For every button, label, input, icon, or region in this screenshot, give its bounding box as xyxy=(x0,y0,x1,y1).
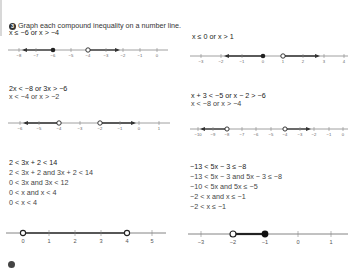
svg-text:−1: −1 xyxy=(118,126,123,131)
svg-text:0: 0 xyxy=(342,132,345,137)
svg-text:−2: −2 xyxy=(219,59,224,64)
svg-text:−8: −8 xyxy=(225,132,230,137)
problem-6-step-3: −2 < x and x ≤ −1 xyxy=(190,192,282,202)
open-point xyxy=(281,54,285,58)
problem-5-step-1: 2 < 3x + 2 and 3x + 2 < 14 xyxy=(9,168,93,178)
problem-4: x + 3 < −5 or x − 2 > −6 x < −8 or x > −… xyxy=(191,92,266,109)
svg-text:−4: −4 xyxy=(283,132,288,137)
problem-3: 2x < −8 or 3x > −6 x < −4 or x > −2 xyxy=(9,85,67,102)
next-exercise-badge xyxy=(8,261,15,268)
svg-text:3: 3 xyxy=(323,59,326,64)
problem-6-inequality: −13 < 5x − 3 ≤ −8 xyxy=(190,162,282,172)
svg-text:−2: −2 xyxy=(230,239,236,245)
problem-5-step-3: 0 < x and x < 4 xyxy=(9,188,93,198)
svg-text:2: 2 xyxy=(73,238,76,244)
problem-1: x ≤ −6 or x > −4 xyxy=(9,29,59,37)
open-point xyxy=(57,121,61,125)
svg-text:−10: −10 xyxy=(194,132,202,137)
page-edge xyxy=(0,0,2,36)
svg-text:−5: −5 xyxy=(269,132,274,137)
svg-text:−3: −3 xyxy=(298,132,303,137)
svg-text:4: 4 xyxy=(343,59,346,64)
number-line-1: −8 −7 −6 −5 −4 −3 −2 −1 0 xyxy=(0,44,176,64)
problem-5-step-2: 0 < 3x and 3x < 12 xyxy=(9,178,93,188)
number-line-3: −6 −5 −4 −3 −2 −1 0 1 xyxy=(0,117,176,137)
open-point xyxy=(283,127,287,131)
problem-6-step-2: −10 < 5x and 5x ≤ −5 xyxy=(190,182,282,192)
svg-text:−2: −2 xyxy=(98,126,103,131)
problem-5-solution: 0 < x < 4 xyxy=(9,198,93,208)
svg-text:1: 1 xyxy=(329,239,332,245)
problem-5: 2 < 3x + 2 < 14 2 < 3x + 2 and 3x + 2 < … xyxy=(9,158,93,208)
svg-text:0: 0 xyxy=(156,53,159,58)
closed-point xyxy=(262,231,269,238)
svg-text:−1: −1 xyxy=(262,239,268,245)
svg-text:4: 4 xyxy=(125,238,128,244)
svg-text:1: 1 xyxy=(158,126,161,131)
svg-text:−3: −3 xyxy=(78,126,83,131)
svg-text:0: 0 xyxy=(262,59,265,64)
svg-text:−3: −3 xyxy=(199,59,204,64)
svg-text:3: 3 xyxy=(99,238,102,244)
svg-text:−2: −2 xyxy=(121,53,126,58)
problem-2-inequality: x ≤ 0 or x > 1 xyxy=(192,33,234,41)
svg-text:−3: −3 xyxy=(104,53,109,58)
svg-text:−1: −1 xyxy=(240,59,245,64)
svg-text:1: 1 xyxy=(282,59,285,64)
open-point xyxy=(86,48,90,52)
closed-point xyxy=(261,54,266,59)
svg-text:1: 1 xyxy=(47,238,50,244)
number-line-2: −3 −2 −1 0 1 2 3 4 xyxy=(176,50,352,70)
number-line-6: −3 −2 −1 0 1 xyxy=(176,227,352,249)
svg-text:−1: −1 xyxy=(327,132,332,137)
svg-text:−5: −5 xyxy=(69,53,74,58)
svg-text:5: 5 xyxy=(150,238,153,244)
svg-text:−6: −6 xyxy=(254,132,259,137)
open-point xyxy=(230,231,236,237)
open-point xyxy=(20,230,25,235)
svg-text:0: 0 xyxy=(296,239,299,245)
problem-1-inequality: x ≤ −6 or x > −4 xyxy=(9,29,59,37)
open-point xyxy=(98,121,102,125)
closed-point xyxy=(51,48,56,53)
svg-text:0: 0 xyxy=(138,126,141,131)
open-point xyxy=(124,230,129,235)
svg-text:−7: −7 xyxy=(240,132,245,137)
svg-text:−6: −6 xyxy=(51,53,56,58)
svg-text:−3: −3 xyxy=(198,239,204,245)
svg-text:−7: −7 xyxy=(34,53,39,58)
svg-text:−8: −8 xyxy=(17,53,22,58)
svg-text:−5: −5 xyxy=(37,126,42,131)
problem-6-solution: −2 < x ≤ −1 xyxy=(190,202,282,212)
svg-text:−6: −6 xyxy=(18,126,23,131)
problem-6-step-1: −13 < 5x − 3 and 5x − 3 ≤ −8 xyxy=(190,172,282,182)
number-line-4: −10 −9 −8 −7 −6 −5 −4 −3 −2 −1 0 xyxy=(176,123,352,143)
svg-text:2: 2 xyxy=(302,59,305,64)
problem-6: −13 < 5x − 3 ≤ −8 −13 < 5x − 3 and 5x − … xyxy=(190,162,282,212)
svg-text:0: 0 xyxy=(21,238,24,244)
problem-5-inequality: 2 < 3x + 2 < 14 xyxy=(9,158,93,168)
svg-text:−4: −4 xyxy=(86,53,91,58)
svg-text:−2: −2 xyxy=(312,132,317,137)
problem-3-solution: x < −4 or x > −2 xyxy=(9,93,67,101)
problem-2: x ≤ 0 or x > 1 xyxy=(192,33,234,41)
open-point xyxy=(225,127,229,131)
problem-4-solution: x < −8 or x > −4 xyxy=(191,100,266,108)
svg-text:−9: −9 xyxy=(211,132,216,137)
svg-text:−1: −1 xyxy=(138,53,143,58)
number-line-5: 0 1 2 3 4 5 xyxy=(0,227,176,249)
svg-text:−4: −4 xyxy=(57,126,62,131)
